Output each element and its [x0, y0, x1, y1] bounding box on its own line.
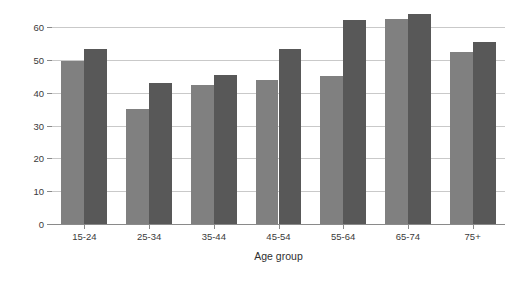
- x-tick-label: 25-34: [137, 231, 161, 242]
- bar: [343, 20, 366, 224]
- bar: [191, 85, 214, 224]
- bar-chart: 0102030405060 15-2425-3435-4445-5455-646…: [0, 0, 527, 281]
- x-tick-label: 55-64: [331, 231, 355, 242]
- bar: [149, 83, 172, 225]
- x-tick-mark: [279, 224, 280, 229]
- bar: [256, 80, 279, 224]
- x-tick-label: 15-24: [72, 231, 96, 242]
- x-tick-mark: [473, 224, 474, 229]
- x-tick-mark: [84, 224, 85, 229]
- bar: [385, 19, 408, 224]
- x-tick-mark: [408, 224, 409, 229]
- bar: [473, 42, 496, 224]
- y-tick-label: 40: [33, 87, 44, 98]
- x-tick-mark: [214, 224, 215, 229]
- y-tick-label: 10: [33, 186, 44, 197]
- bar: [126, 109, 149, 224]
- bars-layer: [52, 27, 505, 224]
- x-tick-label: 65-74: [396, 231, 420, 242]
- x-tick-mark: [149, 224, 150, 229]
- x-tick-label: 45-54: [266, 231, 290, 242]
- x-tick-label: 75+: [465, 231, 481, 242]
- bar: [84, 49, 107, 224]
- x-tick-mark: [343, 224, 344, 229]
- bar: [320, 76, 343, 224]
- y-tick-label: 0: [39, 219, 44, 230]
- x-axis-title: Age group: [52, 250, 505, 262]
- bar: [61, 61, 84, 224]
- bar: [279, 49, 302, 224]
- plot-area: 0102030405060: [52, 27, 505, 224]
- y-tick-label: 60: [33, 22, 44, 33]
- y-tick-label: 50: [33, 54, 44, 65]
- x-tick-label: 35-44: [202, 231, 226, 242]
- bar: [214, 75, 237, 224]
- bar: [408, 14, 431, 224]
- bar: [450, 52, 473, 224]
- y-tick-label: 30: [33, 120, 44, 131]
- y-tick-label: 20: [33, 153, 44, 164]
